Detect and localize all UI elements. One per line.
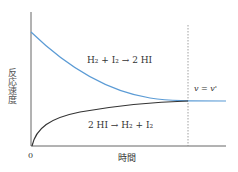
equilibrium-label: v = v' xyxy=(194,84,217,93)
forward-reaction-label: H₂ + I₂ → 2 HI xyxy=(87,55,152,65)
y-axis-label: 反応速度 xyxy=(6,68,19,104)
x-axis-label: 時間 xyxy=(118,151,136,164)
reverse-reaction-label: 2 HI → H₂ + I₂ xyxy=(88,120,153,130)
origin-label: 0 xyxy=(28,151,33,160)
